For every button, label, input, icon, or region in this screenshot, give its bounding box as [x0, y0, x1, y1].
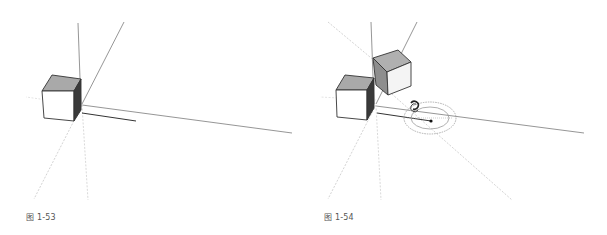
move-inference-line — [82, 113, 136, 121]
figure-caption: 图 1-53 — [26, 211, 56, 222]
rotate-pivot-point[interactable] — [429, 119, 432, 122]
cube[interactable] — [42, 75, 81, 121]
figure-panel-1-54: 图 1-54 — [300, 0, 607, 235]
cube-rotated-copy[interactable] — [373, 50, 411, 95]
viewport-3d — [0, 0, 300, 235]
cube[interactable] — [336, 75, 374, 120]
protractor-icon[interactable] — [404, 102, 456, 134]
viewport-3d — [300, 0, 607, 235]
figure-panel-1-53: 图 1-53 — [0, 0, 300, 235]
figure-caption: 图 1-54 — [324, 211, 354, 222]
